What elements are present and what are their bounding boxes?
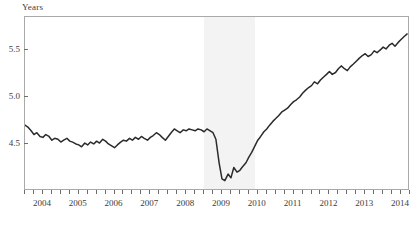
x-minor-tick-mark [149, 190, 150, 194]
x-minor-tick-mark [284, 190, 285, 194]
x-minor-tick-mark [346, 190, 347, 194]
x-tick-label: 2011 [273, 198, 313, 208]
y-tick-label: 5.5 [0, 44, 20, 54]
x-minor-tick-mark [131, 190, 132, 194]
x-minor-tick-mark [373, 190, 374, 194]
x-minor-tick-mark [364, 190, 365, 194]
x-minor-tick-mark [391, 190, 392, 194]
x-minor-tick-mark [248, 190, 249, 194]
x-minor-tick-mark [293, 190, 294, 194]
data-series-line [25, 34, 407, 181]
data-line-svg [25, 17, 410, 191]
x-minor-tick-mark [60, 190, 61, 194]
y-axis-title: Years [22, 2, 43, 12]
x-minor-tick-mark [185, 190, 186, 194]
x-minor-tick-mark [96, 190, 97, 194]
x-minor-tick-mark [24, 190, 25, 194]
x-minor-tick-mark [194, 190, 195, 194]
x-minor-tick-mark [221, 190, 222, 194]
x-minor-tick-mark [87, 190, 88, 194]
x-minor-tick-mark [78, 190, 79, 194]
x-minor-tick-mark [266, 190, 267, 194]
x-tick-label: 2014 [380, 198, 418, 208]
x-minor-tick-mark [239, 190, 240, 194]
plot-area [24, 16, 409, 190]
x-tick-label: 2010 [237, 198, 277, 208]
x-minor-tick-mark [328, 190, 329, 194]
x-minor-tick-mark [230, 190, 231, 194]
x-minor-tick-mark [122, 190, 123, 194]
x-minor-tick-mark [203, 190, 204, 194]
x-minor-tick-mark [33, 190, 34, 194]
x-tick-label: 2012 [308, 198, 348, 208]
chart-root: Years 4.55.05.5 200420052006200720082009… [0, 0, 418, 226]
x-minor-tick-mark [337, 190, 338, 194]
x-minor-tick-mark [311, 190, 312, 194]
y-tick-mark [24, 49, 28, 50]
x-minor-tick-mark [51, 190, 52, 194]
y-tick-mark [24, 143, 28, 144]
x-minor-tick-mark [176, 190, 177, 194]
y-tick-mark [24, 96, 28, 97]
x-tick-label: 2005 [58, 198, 98, 208]
x-minor-tick-mark [302, 190, 303, 194]
x-minor-tick-mark [355, 190, 356, 194]
x-tick-label: 2004 [22, 198, 62, 208]
x-tick-label: 2009 [201, 198, 241, 208]
x-minor-tick-mark [319, 190, 320, 194]
x-tick-label: 2013 [344, 198, 384, 208]
x-minor-tick-mark [114, 190, 115, 194]
x-minor-tick-mark [212, 190, 213, 194]
x-minor-tick-mark [105, 190, 106, 194]
x-minor-tick-mark [275, 190, 276, 194]
x-minor-tick-mark [42, 190, 43, 194]
x-minor-tick-mark [158, 190, 159, 194]
y-tick-label: 5.0 [0, 91, 20, 101]
x-tick-label: 2008 [165, 198, 205, 208]
x-tick-label: 2007 [129, 198, 169, 208]
x-minor-tick-mark [400, 190, 401, 194]
x-minor-tick-mark [140, 190, 141, 194]
x-minor-tick-mark [167, 190, 168, 194]
x-minor-tick-mark [69, 190, 70, 194]
x-minor-tick-mark [257, 190, 258, 194]
y-tick-label: 4.5 [0, 138, 20, 148]
x-tick-label: 2006 [94, 198, 134, 208]
x-minor-tick-mark [382, 190, 383, 194]
x-minor-tick-mark [409, 190, 410, 194]
